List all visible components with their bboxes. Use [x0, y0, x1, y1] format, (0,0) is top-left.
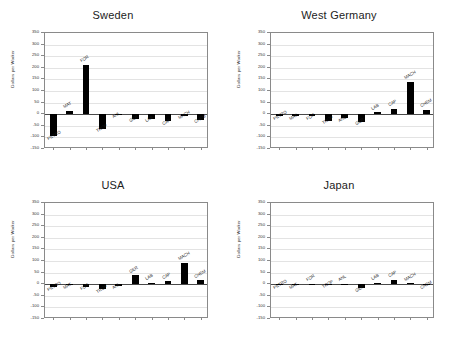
grid-line	[45, 215, 207, 216]
panel-sweden: SwedenDollars per Worker3503002502001501…	[0, 0, 226, 169]
bar-label-petro: PETRO	[46, 281, 61, 292]
y-tick-label: 300	[32, 211, 39, 215]
bar-label-lab: LAB	[145, 116, 154, 124]
plot-area-west-germany: PETROMATFORTROPANLGERLABCAPMACHCHEM	[270, 32, 434, 148]
bar-label-mat: MAT	[289, 282, 299, 290]
y-tick-label: 0	[37, 281, 39, 285]
x-tick-mark	[168, 147, 169, 150]
y-tick-label: -50	[33, 123, 39, 127]
x-tick-mark	[135, 317, 136, 320]
grid-line	[271, 215, 433, 216]
grid-line	[271, 126, 433, 127]
x-tick-mark	[345, 147, 346, 150]
grid-line	[45, 238, 207, 239]
bar-label-for: FOR	[79, 55, 89, 64]
bar-mach	[407, 283, 414, 284]
bar-ger	[132, 275, 139, 284]
bar-mach	[407, 82, 414, 114]
grid-line	[45, 79, 207, 80]
grid-line	[271, 79, 433, 80]
y-tick-label: -50	[259, 293, 265, 297]
y-tick-label: 200	[258, 65, 265, 69]
chart-title-japan: Japan	[226, 179, 452, 191]
bar-label-lab: LAB	[145, 274, 154, 282]
x-tick-mark	[86, 147, 87, 150]
x-tick-mark	[152, 317, 153, 320]
bar-label-cap: CAP	[387, 271, 397, 279]
plot-area-sweden: PETROMATFORTROPANLGERLABCAPMACHCHEM	[44, 32, 208, 148]
y-tick-label: -150	[31, 146, 39, 150]
x-tick-mark	[328, 147, 329, 150]
bar-mat	[66, 111, 73, 114]
bar-label-for: FOR	[79, 283, 89, 292]
x-tick-mark	[427, 317, 428, 320]
y-tick-label: -100	[257, 304, 265, 308]
plot-area-usa: PETROMATFORTROPANLGERLABCAPMACHCHEM	[44, 202, 208, 318]
grid-line	[271, 238, 433, 239]
grid-line	[271, 296, 433, 297]
x-tick-mark	[312, 147, 313, 150]
grid-line	[45, 56, 207, 57]
bar-for	[309, 284, 316, 285]
x-tick-mark	[427, 147, 428, 150]
y-tick-label: -50	[33, 293, 39, 297]
bar-for	[83, 65, 90, 114]
grid-line	[45, 296, 207, 297]
grid-line	[271, 68, 433, 69]
bar-label-cap: CAP	[387, 100, 397, 108]
y-tick-label: 100	[258, 258, 265, 262]
x-tick-mark	[201, 317, 202, 320]
y-axis-ticks-japan: 350300250200150100500-50-100-150	[226, 202, 270, 318]
x-tick-mark	[312, 317, 313, 320]
x-tick-mark	[328, 317, 329, 320]
x-tick-mark	[53, 147, 54, 150]
grid-line	[45, 249, 207, 250]
x-tick-mark	[70, 317, 71, 320]
y-tick-label: 150	[258, 246, 265, 250]
panel-west-germany: West GermanyDollars per Worker3503002502…	[226, 0, 452, 169]
bar-lab	[374, 283, 381, 284]
x-tick-mark	[296, 147, 297, 150]
grid-line	[271, 226, 433, 227]
bar-label-trop: TROP	[96, 285, 109, 295]
bar-label-anl: ANL	[338, 115, 348, 123]
y-tick-label: 150	[32, 246, 39, 250]
y-tick-label: 100	[32, 258, 39, 262]
y-tick-label: 300	[258, 41, 265, 45]
bar-cap	[165, 281, 172, 284]
bar-anl	[341, 284, 348, 285]
y-tick-label: 50	[34, 99, 39, 103]
bar-label-anl: ANL	[112, 112, 122, 120]
x-tick-mark	[102, 317, 103, 320]
grid-line	[45, 226, 207, 227]
chart-title-usa: USA	[0, 179, 226, 191]
y-tick-label: 200	[258, 235, 265, 239]
bar-lab	[148, 283, 155, 285]
bar-label-mat: MAT	[63, 101, 73, 109]
y-tick-label: 50	[260, 269, 265, 273]
bar-label-lab: LAB	[371, 274, 380, 282]
grid-line	[271, 261, 433, 262]
y-axis-ticks-sweden: 350300250200150100500-50-100-150	[0, 32, 44, 148]
bar-label-anl: ANL	[112, 283, 122, 291]
y-tick-label: 150	[258, 76, 265, 80]
x-tick-mark	[168, 317, 169, 320]
x-tick-mark	[184, 317, 185, 320]
bar-label-lab: LAB	[371, 103, 380, 111]
bar-label-ger: GER	[354, 285, 364, 294]
bar-label-chem: CHEM	[194, 114, 207, 124]
chart-title-west-germany: West Germany	[226, 9, 452, 21]
x-tick-mark	[410, 317, 411, 320]
panel-usa: USADollars per Worker3503002502001501005…	[0, 170, 226, 339]
bar-lab	[374, 112, 381, 114]
x-tick-mark	[410, 147, 411, 150]
x-tick-mark	[394, 147, 395, 150]
grid-line	[45, 91, 207, 92]
y-tick-mark	[41, 148, 44, 149]
y-tick-label: 0	[37, 111, 39, 115]
x-tick-mark	[279, 147, 280, 150]
panel-japan: JapanDollars per Worker35030025020015010…	[226, 170, 452, 339]
bar-cap	[391, 280, 398, 284]
y-tick-label: 250	[258, 223, 265, 227]
x-tick-mark	[102, 147, 103, 150]
